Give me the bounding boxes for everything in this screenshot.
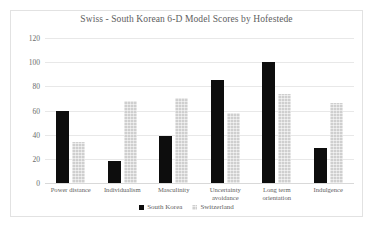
y-axis-tick-40: 40 (33, 130, 41, 139)
y-axis-tick-100: 100 (29, 58, 40, 67)
y-axis-tick-80: 80 (33, 82, 41, 91)
legend-label: South Korea (147, 203, 182, 211)
bar-groups (45, 38, 354, 183)
bar-south-korea[interactable] (159, 136, 172, 183)
plot-area: 120 100 80 60 40 20 0 (45, 38, 354, 183)
bar-south-korea[interactable] (211, 80, 224, 183)
x-axis-label: Indulgence (306, 186, 351, 201)
bar-group (151, 38, 196, 183)
legend-item-south-korea[interactable]: South Korea (139, 203, 182, 211)
bar-group (306, 38, 351, 183)
x-axis-label: Individualism (100, 186, 145, 201)
y-axis-tick-20: 20 (33, 154, 41, 163)
bar-group (48, 38, 93, 183)
bar-switzerland[interactable] (72, 142, 85, 183)
y-axis-tick-0: 0 (36, 179, 40, 188)
legend-swatch-icon (139, 205, 144, 210)
bar-south-korea[interactable] (56, 111, 69, 184)
chart-title: Swiss - South Korean 6-D Model Scores by… (11, 14, 362, 24)
bar-switzerland[interactable] (227, 113, 240, 183)
bar-switzerland[interactable] (330, 103, 343, 183)
x-axis-labels: Power distance Individualism Masculinity… (45, 186, 354, 201)
chart-legend: South Korea Switzerland (11, 203, 362, 211)
x-axis-label: Uncertainty avoidance (203, 186, 248, 201)
bar-group (254, 38, 299, 183)
legend-swatch-icon (192, 205, 197, 210)
bar-switzerland[interactable] (278, 94, 291, 183)
x-axis-label: Power distance (48, 186, 93, 201)
legend-label: Switzerland (200, 203, 233, 211)
bar-south-korea[interactable] (108, 161, 121, 183)
legend-item-switzerland[interactable]: Switzerland (192, 203, 233, 211)
x-axis-label: Long term orientation (254, 186, 299, 201)
y-axis-tick-60: 60 (33, 106, 41, 115)
bar-switzerland[interactable] (175, 98, 188, 183)
bar-group (203, 38, 248, 183)
x-axis-label: Masculinity (151, 186, 196, 201)
bar-south-korea[interactable] (314, 148, 327, 183)
x-axis-line (45, 183, 354, 184)
bar-group (100, 38, 145, 183)
bar-switzerland[interactable] (124, 101, 137, 183)
bar-south-korea[interactable] (262, 62, 275, 183)
y-axis-tick-120: 120 (29, 34, 40, 43)
chart-card: Swiss - South Korean 6-D Model Scores by… (10, 10, 363, 217)
